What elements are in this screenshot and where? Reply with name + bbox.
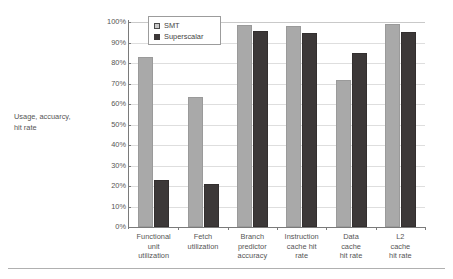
- chart-legend: SMT Superscalar: [148, 16, 221, 45]
- plot-bars: [129, 22, 425, 227]
- y-tick-mark: [128, 207, 131, 208]
- y-tick-label: 40%: [100, 141, 126, 149]
- bar-group: [286, 22, 317, 227]
- bar-smt: [188, 97, 203, 227]
- legend-item-superscalar: Superscalar: [154, 31, 203, 42]
- bar-group: [237, 22, 268, 227]
- y-axis-title-line-1: Usage, accuarcy,: [14, 112, 100, 123]
- bar-superscalar: [302, 33, 317, 227]
- y-tick-mark: [128, 125, 131, 126]
- y-axis-ticks: 0%10%20%30%40%50%60%70%80%90%100%: [96, 22, 126, 227]
- bar-group: [138, 22, 169, 227]
- x-axis-label: Instruction cache hit rate: [277, 232, 326, 261]
- bar-smt: [336, 80, 351, 227]
- y-tick-label: 100%: [100, 18, 126, 26]
- y-tick-mark: [128, 227, 131, 228]
- y-tick-label: 70%: [100, 80, 126, 88]
- x-tick-mark: [326, 227, 327, 230]
- x-tick-mark: [277, 227, 278, 230]
- y-tick-label: 90%: [100, 39, 126, 47]
- y-tick-label: 0%: [100, 223, 126, 231]
- y-tick-label: 50%: [100, 121, 126, 129]
- y-tick-mark: [128, 145, 131, 146]
- y-tick-label: 60%: [100, 100, 126, 108]
- bar-superscalar: [154, 180, 169, 227]
- legend-swatch-superscalar-icon: [154, 34, 160, 40]
- x-tick-mark: [376, 227, 377, 230]
- y-tick-label: 30%: [100, 162, 126, 170]
- y-tick-mark: [128, 22, 131, 23]
- y-tick-mark: [128, 166, 131, 167]
- x-tick-mark: [178, 227, 179, 230]
- y-tick-label: 80%: [100, 59, 126, 67]
- bar-superscalar: [204, 184, 219, 227]
- bar-smt: [286, 26, 301, 227]
- y-axis-title: Usage, accuarcy, hit rate: [14, 112, 100, 133]
- bottom-divider: [8, 268, 445, 269]
- bar-superscalar: [401, 32, 416, 227]
- y-tick-mark: [128, 63, 131, 64]
- legend-label-smt: SMT: [164, 22, 180, 30]
- x-axis-label: Data cache hit rate: [326, 232, 375, 261]
- x-axis-label: Fetch utilization: [178, 232, 227, 251]
- y-axis-title-line-2: hit rate: [14, 123, 100, 134]
- bar-superscalar: [352, 53, 367, 227]
- legend-item-smt: SMT: [154, 20, 180, 31]
- bar-superscalar: [253, 31, 268, 227]
- bar-smt: [385, 24, 400, 227]
- legend-swatch-smt-icon: [154, 23, 160, 29]
- y-tick-mark: [128, 186, 131, 187]
- x-axis-label: Functional unit utilization: [129, 232, 178, 261]
- x-tick-mark: [228, 227, 229, 230]
- x-tick-mark: [425, 227, 426, 230]
- x-axis-labels: Functional unit utilizationFetch utiliza…: [129, 232, 425, 276]
- y-tick-mark: [128, 104, 131, 105]
- bar-smt: [237, 25, 252, 227]
- x-axis-label: Branch predictor accuracy: [228, 232, 277, 261]
- y-tick-label: 20%: [100, 182, 126, 190]
- x-axis-label: L2 cache hit rate: [376, 232, 425, 261]
- chart-figure: Usage, accuarcy, hit rate 0%10%20%30%40%…: [0, 0, 453, 279]
- bar-smt: [138, 57, 153, 227]
- y-tick-mark: [128, 84, 131, 85]
- bar-group: [385, 22, 416, 227]
- y-tick-mark: [128, 43, 131, 44]
- y-tick-label: 10%: [100, 203, 126, 211]
- bar-group: [336, 22, 367, 227]
- bar-group: [188, 22, 219, 227]
- legend-label-superscalar: Superscalar: [164, 33, 203, 41]
